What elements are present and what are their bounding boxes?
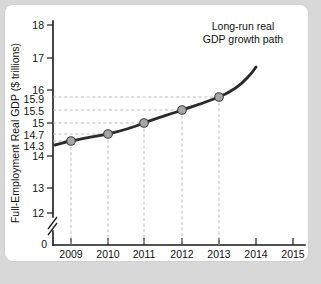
y-axis-title: Full-Employment Real GDP ($ trillions) xyxy=(9,43,21,223)
y-tick-label-15: 15 xyxy=(32,117,44,129)
x-tick-label-2015: 2015 xyxy=(281,248,305,260)
data-point-2009 xyxy=(67,137,76,146)
data-point-2011 xyxy=(140,119,149,128)
origin-label: 0 xyxy=(41,238,47,250)
axis-break-icon xyxy=(48,217,57,229)
data-point-2012 xyxy=(178,106,187,115)
x-tick-label-2009: 2009 xyxy=(59,248,83,260)
x-tick-label-2012: 2012 xyxy=(170,248,194,260)
annotation-line-1: Long-run real xyxy=(212,20,274,32)
x-tick-label-2010: 2010 xyxy=(96,248,120,260)
y-tick-label-12: 12 xyxy=(32,207,44,219)
y-tick-label-18: 18 xyxy=(32,19,44,31)
x-tick-label-2011: 2011 xyxy=(133,248,156,260)
data-point-2010 xyxy=(104,130,113,139)
chart-panel: Full-Employment Real GDP ($ trillions) 1… xyxy=(4,4,309,262)
y-tick-label-13: 13 xyxy=(32,182,44,194)
y-value-label-15-5: 15.5 xyxy=(24,105,45,117)
y-value-label-14-3: 14.3 xyxy=(24,140,45,152)
data-point-2013 xyxy=(215,93,224,102)
y-value-label-15-9: 15.9 xyxy=(24,93,45,105)
x-tick-label-2014: 2014 xyxy=(244,248,268,260)
y-tick-label-17: 17 xyxy=(32,52,44,64)
annotation-line-2: GDP growth path xyxy=(203,33,284,45)
gdp-growth-line-chart: Full-Employment Real GDP ($ trillions) 1… xyxy=(5,5,310,263)
gdp-growth-curve xyxy=(55,67,256,145)
x-tick-label-2013: 2013 xyxy=(207,248,231,260)
